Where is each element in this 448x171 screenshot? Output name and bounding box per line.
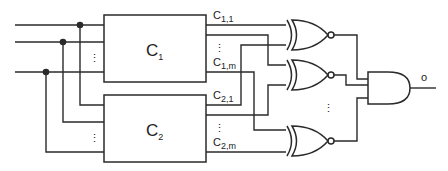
output-ellipsis-c1: ⋮ xyxy=(214,42,225,54)
output-label-c21: C2,1 xyxy=(213,89,233,104)
output-label-c11: C1,1 xyxy=(213,9,233,24)
input-ellipsis-bottom: ⋮ xyxy=(89,132,100,144)
junction-dot xyxy=(43,69,50,76)
input-ellipsis-top: ⋮ xyxy=(89,52,100,64)
xnor-gate-1 xyxy=(287,20,334,50)
xnor-gate-2 xyxy=(287,60,334,90)
output-label-c1m: C1,m xyxy=(213,56,236,71)
and-gate xyxy=(368,72,410,104)
junction-dot xyxy=(77,22,84,29)
and-input-wires xyxy=(334,35,368,141)
output-label-c2m: C2,m xyxy=(213,136,236,151)
circuit-diagram: ⋮ ⋮ C1 C2 C1,1 C1,m C2,1 C2,m ⋮ ⋮ xyxy=(0,0,448,171)
output-ellipsis-c2: ⋮ xyxy=(214,122,225,134)
gate-ellipsis: ⋮ xyxy=(323,102,334,114)
final-output-label: o xyxy=(421,71,427,83)
junction-dot xyxy=(60,39,67,46)
circuit-svg: ⋮ ⋮ C1 C2 C1,1 C1,m C2,1 C2,m ⋮ ⋮ xyxy=(0,0,448,171)
xnor-gate-m xyxy=(287,126,334,156)
